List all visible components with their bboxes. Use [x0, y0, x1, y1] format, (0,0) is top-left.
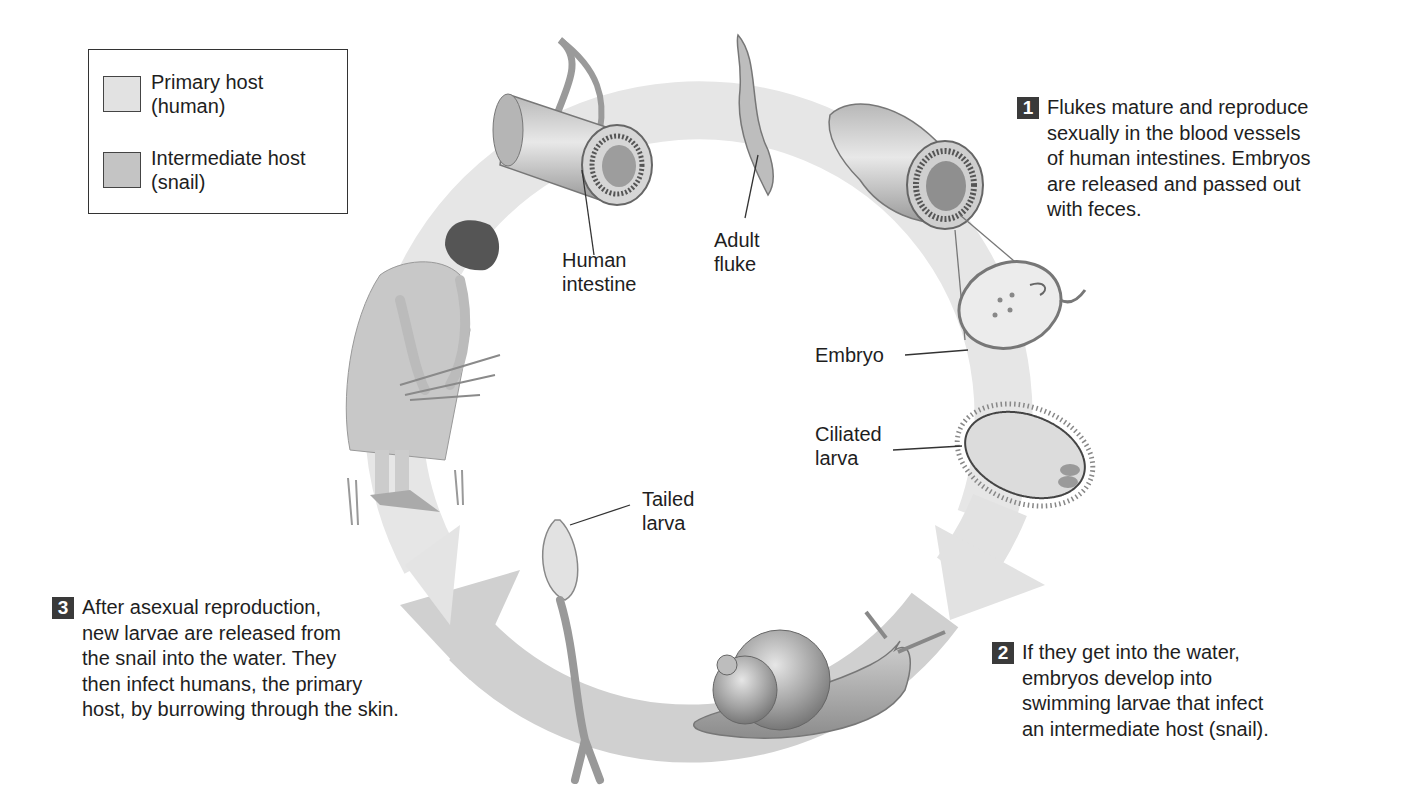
cycle-arrow-to-snail — [935, 505, 1045, 620]
step-2: 2 If they get into the water, embryos de… — [992, 640, 1269, 742]
step-description: If they get into the water, embryos deve… — [1022, 640, 1269, 742]
label-tailed-larva: Tailed larva — [642, 487, 694, 535]
legend-item-primary-host: Primary host (human) — [103, 70, 263, 118]
label-ciliated-larva: Ciliated larva — [815, 422, 882, 470]
human-intestine-illustration — [493, 40, 652, 255]
step-number-badge: 1 — [1017, 97, 1039, 119]
primary-host-swatch — [103, 76, 141, 112]
step-number-badge: 3 — [52, 597, 74, 619]
label-embryo: Embryo — [815, 343, 884, 367]
label-adult-fluke: Adult fluke — [714, 228, 760, 276]
step-description: After asexual reproduction, new larvae a… — [82, 595, 399, 723]
legend: Primary host (human) Intermediate host (… — [88, 49, 348, 214]
legend-label: Primary host (human) — [151, 70, 263, 118]
label-human-intestine: Human intestine — [562, 248, 637, 296]
intermediate-host-swatch — [103, 152, 141, 188]
step-description: Flukes mature and reproduce sexually in … — [1047, 95, 1310, 223]
step-number-badge: 2 — [992, 642, 1014, 664]
step-3: 3 After asexual reproduction, new larvae… — [52, 595, 399, 723]
legend-label: Intermediate host (snail) — [151, 146, 306, 194]
step-1: 1 Flukes mature and reproduce sexually i… — [1017, 95, 1310, 223]
legend-item-intermediate-host: Intermediate host (snail) — [103, 146, 306, 194]
